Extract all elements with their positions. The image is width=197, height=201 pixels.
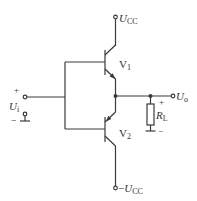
- svg-text:V2: V2: [119, 127, 131, 141]
- svg-text:V1: V1: [119, 58, 131, 72]
- svg-text:−: −: [11, 115, 17, 126]
- svg-text:Uo: Uo: [176, 90, 188, 104]
- svg-text:+: +: [14, 85, 19, 95]
- output-terminal: [171, 94, 175, 98]
- transistor-v2-pnp: V2: [105, 112, 131, 146]
- circuit-diagram: UCC V1 V2 −UCC: [0, 0, 197, 201]
- positive-supply-terminal: UCC: [114, 12, 138, 44]
- svg-text:UCC: UCC: [119, 12, 138, 26]
- negative-supply-terminal: −UCC: [114, 146, 143, 196]
- svg-text:−UCC: −UCC: [118, 182, 143, 196]
- svg-text:−: −: [158, 126, 163, 136]
- base-drive-wires: [27, 62, 105, 129]
- input-terminals: + Ui −: [9, 85, 30, 126]
- svg-text:RL: RL: [155, 109, 168, 123]
- svg-text:Ui: Ui: [9, 100, 20, 114]
- load-resistor-rl: RL −: [146, 96, 168, 136]
- svg-text:+: +: [159, 97, 164, 107]
- resistor-icon: [147, 104, 154, 125]
- transistor-v1-npn: V1: [105, 44, 131, 79]
